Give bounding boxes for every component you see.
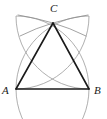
vertex-label-c: C <box>50 3 57 14</box>
segment-ac <box>16 23 53 89</box>
segment-bc <box>53 23 89 89</box>
geometry-figure: A B C <box>0 0 107 119</box>
vertex-label-b: B <box>94 85 101 96</box>
vertex-label-a: A <box>2 85 9 96</box>
construction-diagram-canvas <box>0 0 107 119</box>
